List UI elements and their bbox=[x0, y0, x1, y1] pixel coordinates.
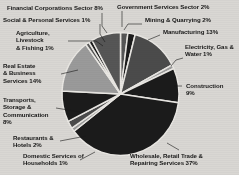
label-manufacturing: Manufacturing 13% bbox=[163, 28, 218, 35]
label-financial-corporations-sector: Financial Corporations Sector 8% bbox=[7, 4, 103, 11]
pie-chart-figure: Financial Corporations Sector 8% Social … bbox=[0, 0, 239, 175]
label-restaurants-hotels: Restaurants & Hotels 2% bbox=[13, 134, 54, 149]
label-government-services-sector: Government Services Sector 2% bbox=[117, 3, 209, 10]
label-wholesale-retail-trade: Wholesale, Retail Trade & Repairing Serv… bbox=[130, 152, 203, 167]
label-agriculture-livestock-fishing: Agriculture, Livestock & Fishing 1% bbox=[16, 29, 54, 51]
label-construction: Construction 9% bbox=[186, 82, 223, 97]
label-domestic-services-households: Domestic Services of Households 1% bbox=[23, 152, 84, 167]
label-social-personal-services: Social & Personal Services 1% bbox=[3, 16, 90, 23]
label-transports-storage-communication: Transports, Storage & Communication 8% bbox=[3, 96, 48, 126]
label-mining-quarrying: Mining & Quarrying 2% bbox=[145, 16, 211, 23]
label-electricity-gas-water: Electricity, Gas & Water 1% bbox=[185, 43, 234, 58]
label-real-estate-business-services: Real Estate & Business Services 14% bbox=[3, 62, 41, 84]
